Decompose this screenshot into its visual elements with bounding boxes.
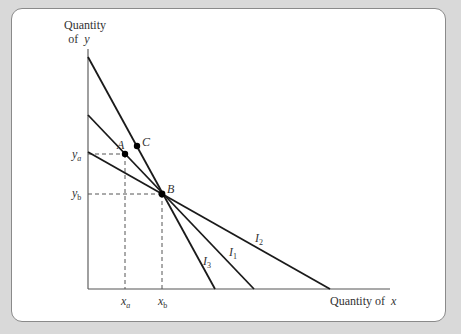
indifference-diagram: A C B Quantity of y Quantity of x ya yb … xyxy=(0,0,461,334)
point-C xyxy=(134,143,140,149)
point-A-label: A xyxy=(116,138,125,152)
y-axis-title-line2: of y xyxy=(68,32,90,46)
label-I3: I3 xyxy=(202,254,211,270)
x-axis-title: Quantity of x xyxy=(330,294,397,308)
curve-I3 xyxy=(88,57,215,289)
label-I2: I2 xyxy=(254,231,263,247)
tick-xb: xb xyxy=(157,294,167,310)
y-axis-var: y xyxy=(83,32,90,46)
x-axis-quantity-of: Quantity of xyxy=(330,294,385,308)
point-B xyxy=(159,191,166,198)
x-axis-var: x xyxy=(390,294,397,308)
label-I1: I1 xyxy=(228,245,237,261)
y-axis-title-line1: Quantity xyxy=(64,18,106,32)
point-B-label: B xyxy=(167,182,175,196)
tick-xa: xa xyxy=(120,294,130,310)
tick-ya: ya xyxy=(71,147,81,163)
tick-yb: yb xyxy=(71,186,81,202)
point-C-label: C xyxy=(142,135,151,149)
y-axis-of: of xyxy=(68,32,78,46)
curve-I1 xyxy=(88,115,254,289)
